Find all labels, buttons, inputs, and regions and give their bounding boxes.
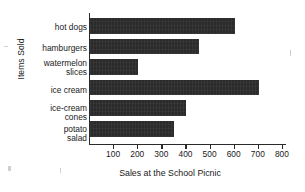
x-tick-label-500: 500 [197, 149, 223, 159]
x-tick-label-700: 700 [245, 149, 271, 159]
bar-chart: Items Sold hot dogs hamburgers watermelo… [0, 0, 305, 192]
category-label-line: cones [65, 112, 87, 122]
scan-artifact [290, 50, 291, 56]
category-label-line: salad [67, 133, 87, 143]
category-label-potato-salad-line2: salad [24, 134, 87, 143]
category-label-line: hamburgers [42, 43, 87, 53]
x-tick-label-600: 600 [221, 149, 247, 159]
category-label-hamburgers: hamburgers [24, 44, 87, 53]
x-tick-label-300: 300 [148, 149, 174, 159]
x-tick-label-800: 800 [269, 149, 295, 159]
scan-artifact [4, 46, 8, 47]
x-tick-label-200: 200 [124, 149, 150, 159]
category-label-line: hot dogs [55, 22, 87, 32]
bar-watermelon-slices [90, 59, 138, 75]
category-label-watermelon-slices-line2: slices [24, 68, 87, 77]
bar-ice-cream [90, 80, 259, 96]
x-tick-label-100: 100 [100, 149, 126, 159]
x-tick-label-400: 400 [172, 149, 198, 159]
category-label-hot-dogs: hot dogs [24, 23, 87, 32]
category-label-line: slices [66, 67, 87, 77]
category-label-column: hot dogs hamburgers watermelon slices ic… [24, 17, 87, 145]
bar-potato-salad [90, 121, 174, 137]
category-label-ice-cream: ice cream [24, 86, 87, 95]
scan-artifact [60, 168, 61, 173]
x-axis-title: Sales at the School Picnic [70, 168, 270, 178]
bar-ice-cream-cones [90, 100, 186, 116]
scan-artifact [8, 166, 11, 171]
category-label-line: ice cream [51, 85, 87, 95]
plot-area [89, 13, 294, 145]
x-axis-line [89, 144, 286, 145]
bar-hamburgers [90, 39, 199, 55]
category-label-ice-cream-cones-line2: cones [24, 113, 87, 122]
bar-hot-dogs [90, 18, 235, 34]
